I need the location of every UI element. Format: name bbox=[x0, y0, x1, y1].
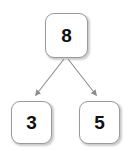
tree-diagram-canvas: 8 3 5 bbox=[0, 0, 133, 151]
tree-node-right-child-label: 5 bbox=[94, 113, 105, 132]
edge-root-to-right bbox=[68, 59, 97, 96]
tree-node-right-child[interactable]: 5 bbox=[79, 101, 120, 144]
tree-node-left-child-label: 3 bbox=[26, 113, 37, 132]
tree-node-root-label: 8 bbox=[61, 26, 72, 45]
tree-node-root[interactable]: 8 bbox=[45, 13, 88, 58]
edge-root-to-left bbox=[36, 59, 65, 96]
tree-node-left-child[interactable]: 3 bbox=[11, 101, 52, 144]
